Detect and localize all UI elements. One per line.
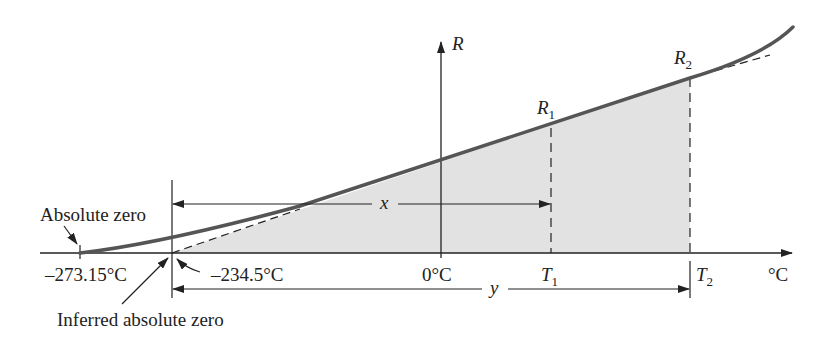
y-axis-label: R — [452, 34, 464, 53]
r1-label: R1 — [537, 98, 555, 117]
x-unit-label: °C — [768, 265, 788, 284]
inferred-zero-pointer — [122, 258, 168, 304]
resistance-temperature-diagram — [0, 0, 827, 338]
absolute-zero-pointer — [64, 226, 77, 244]
inferred-zero-value: –234.5°C — [211, 265, 284, 284]
t2-label: T2 — [696, 265, 713, 284]
inferred-absolute-zero-label: Inferred absolute zero — [57, 310, 224, 329]
zero-celsius-label: 0°C — [422, 265, 452, 284]
r2-label: R2 — [674, 48, 692, 67]
y-dimension-label: y — [490, 278, 498, 297]
inferred-value-pointer — [177, 259, 200, 272]
t1-label: T1 — [541, 265, 558, 284]
x-dimension-label: x — [380, 193, 388, 212]
absolute-zero-value: –273.15°C — [45, 265, 127, 284]
absolute-zero-label: Absolute zero — [40, 205, 146, 224]
